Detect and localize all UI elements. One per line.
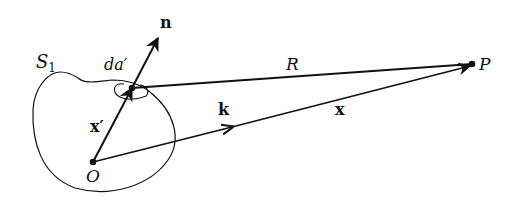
label-surface: S1 (36, 51, 56, 75)
label-source-position: x′ (90, 117, 104, 136)
surface-s1-outline (33, 72, 175, 192)
observation-point (469, 61, 476, 68)
source-point (129, 85, 136, 92)
x-vector (93, 66, 470, 162)
label-distance: R (285, 54, 299, 74)
label-normal: n (160, 13, 172, 32)
normal-vector (132, 38, 158, 88)
label-field-position: x (335, 100, 345, 119)
label-observation-point: P (478, 54, 491, 74)
label-origin: O (86, 166, 100, 186)
origin-point (90, 159, 97, 166)
distance-r-line (132, 64, 472, 88)
label-wave-vector: k (218, 100, 230, 119)
label-area-element: da′ (104, 55, 128, 74)
diffraction-geometry-diagram: S1 da′ n x′ O R k x P (0, 0, 516, 197)
